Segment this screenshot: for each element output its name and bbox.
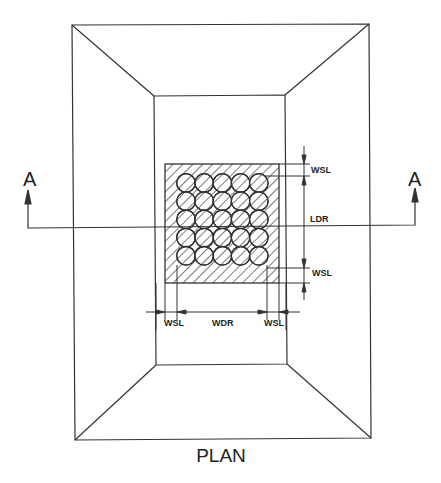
- section-mark-right: A: [408, 168, 422, 190]
- dim-label-ldr: LDR: [310, 214, 329, 224]
- dim-label-wsl-bottom: WSL: [312, 268, 332, 278]
- dim-label-wsl-left: WSL: [164, 318, 184, 328]
- slope-line: [287, 364, 371, 438]
- section-arrow-right-icon: [412, 188, 418, 202]
- dim-label-wsl-right: WSL: [264, 318, 284, 328]
- plan-drawing: A A WSL LDR WSL WSL WDR WSL PLAN: [0, 0, 441, 483]
- slope-line: [75, 365, 156, 440]
- drawing-title: PLAN: [196, 445, 246, 466]
- slope-line: [72, 25, 154, 96]
- dim-label-wdr: WDR: [212, 318, 234, 328]
- section-arrow-left-icon: [25, 190, 31, 204]
- dim-label-wsl-top: WSL: [311, 165, 331, 175]
- slope-line: [285, 24, 369, 95]
- circle-grid: [177, 174, 268, 265]
- section-mark-left: A: [23, 168, 37, 190]
